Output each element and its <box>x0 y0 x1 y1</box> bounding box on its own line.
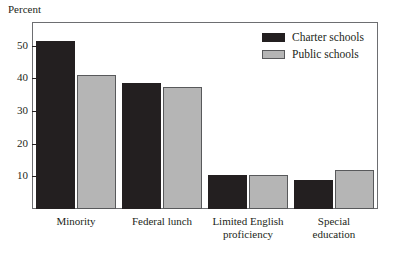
bar-public <box>335 170 374 209</box>
y-axis-tick-label: 50 <box>2 40 28 51</box>
x-axis-label: Special education <box>291 215 377 240</box>
legend-swatch-charter-schools <box>262 33 285 42</box>
x-axis-label: Limited English proficiency <box>205 215 291 240</box>
bar-public <box>249 175 288 209</box>
legend-swatch-public-schools <box>262 50 285 59</box>
bar-public <box>77 75 116 209</box>
x-axis-label: Federal lunch <box>119 215 205 228</box>
y-axis-tick <box>32 46 39 47</box>
bar-public <box>163 87 202 209</box>
x-axis-label: Minority <box>33 215 119 228</box>
bar-charter <box>294 180 333 209</box>
y-axis-tick-label: 30 <box>2 105 28 116</box>
y-axis-title: Percent <box>8 2 41 16</box>
y-axis-tick <box>32 144 39 145</box>
y-axis-tick <box>32 176 39 177</box>
y-axis-tick-label: 40 <box>2 72 28 83</box>
legend-label-public-schools: Public schools <box>292 48 359 61</box>
legend-label-charter-schools: Charter schools <box>292 31 364 44</box>
y-axis-tick <box>32 111 39 112</box>
y-axis-tick <box>32 78 39 79</box>
y-axis-tick-label: 20 <box>2 138 28 149</box>
legend-item-charter-schools: Charter schools <box>262 30 364 45</box>
bar-charter <box>208 175 247 209</box>
legend-item-public-schools: Public schools <box>262 47 364 62</box>
grouped-bar-chart: Percent 1020304050 MinorityFederal lunch… <box>0 0 395 259</box>
chart-legend: Charter schools Public schools <box>262 30 364 64</box>
bar-charter <box>36 41 75 209</box>
bar-charter <box>122 83 161 209</box>
y-axis-tick-label: 10 <box>2 170 28 181</box>
